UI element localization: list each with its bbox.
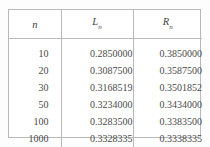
cell-Rn: 0.3501852 bbox=[133, 79, 202, 96]
table-body: 100.28500000.3850000200.30875000.3587500… bbox=[9, 39, 202, 147]
column-header-ln: Ln bbox=[61, 10, 133, 39]
table-row: 1000.32835000.3383500 bbox=[9, 113, 202, 130]
column-header-rn-subscript: n bbox=[169, 23, 173, 31]
table-row: 500.32340000.3434000 bbox=[9, 96, 202, 113]
cell-Rn: 0.3434000 bbox=[133, 96, 202, 113]
table-row: 300.31685190.3501852 bbox=[9, 79, 202, 96]
cell-n: 10 bbox=[9, 45, 61, 62]
page: n Ln Rn 100.28500000.3850000200. bbox=[0, 0, 210, 147]
cell-n: 100 bbox=[9, 113, 61, 130]
cell-Ln: 0.3168519 bbox=[61, 79, 133, 96]
cell-Rn: 0.3850000 bbox=[133, 45, 202, 62]
cell-Rn: 0.3338335 bbox=[133, 130, 202, 147]
cell-n: 1000 bbox=[9, 130, 61, 147]
cell-Ln: 0.3328335 bbox=[61, 130, 133, 147]
column-header-ln-subscript: n bbox=[98, 23, 102, 31]
cell-Ln: 0.3234000 bbox=[61, 96, 133, 113]
cell-Rn: 0.3383500 bbox=[133, 113, 202, 130]
column-header-n: n bbox=[9, 10, 61, 39]
cell-n: 50 bbox=[9, 96, 61, 113]
table-header: n Ln Rn bbox=[9, 10, 202, 39]
cell-n: 30 bbox=[9, 79, 61, 96]
cell-Ln: 0.3283500 bbox=[61, 113, 133, 130]
table-row: 10000.33283350.3338335 bbox=[9, 130, 202, 147]
cell-Rn: 0.3587500 bbox=[133, 62, 202, 79]
table-row: 200.30875000.3587500 bbox=[9, 62, 202, 79]
cell-Ln: 0.3087500 bbox=[61, 62, 133, 79]
numeric-table-frame: n Ln Rn 100.28500000.3850000200. bbox=[8, 9, 201, 138]
cell-n: 20 bbox=[9, 62, 61, 79]
riemann-sum-table: n Ln Rn 100.28500000.3850000200. bbox=[9, 10, 202, 147]
cell-Ln: 0.2850000 bbox=[61, 45, 133, 62]
header-row: n Ln Rn bbox=[9, 10, 202, 39]
column-header-rn: Rn bbox=[133, 10, 202, 39]
table-row: 100.28500000.3850000 bbox=[9, 45, 202, 62]
column-header-n-symbol: n bbox=[32, 19, 37, 30]
